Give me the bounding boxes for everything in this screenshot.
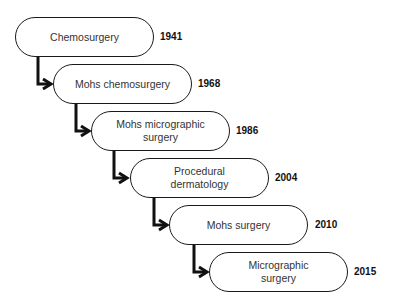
- timeline-node-micrographic-surgery: Micrographic surgery: [209, 252, 348, 292]
- timeline-node-mohs-chemosurgery: Mohs chemosurgery: [53, 64, 192, 104]
- timeline-node-mohs-surgery: Mohs surgery: [169, 205, 308, 245]
- year-label: 2004: [275, 172, 297, 183]
- year-label: 1968: [198, 78, 220, 89]
- year-label: 2010: [315, 219, 337, 230]
- timeline-node-chemosurgery: Chemosurgery: [15, 17, 154, 57]
- timeline-diagram: Chemosurgery 1941 Mohs chemosurgery 1968…: [0, 0, 398, 308]
- year-label: 2015: [354, 266, 376, 277]
- timeline-node-mohs-micrographic-surgery: Mohs micrographic surgery: [91, 111, 230, 151]
- year-label: 1986: [236, 125, 258, 136]
- year-label: 1941: [160, 31, 182, 42]
- timeline-node-procedural-dermatology: Procedural dermatology: [130, 158, 269, 198]
